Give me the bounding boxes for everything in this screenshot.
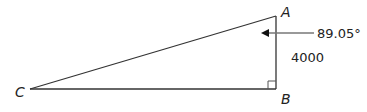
vertex-label-a: A <box>280 4 291 20</box>
arrow-head-icon <box>261 29 269 37</box>
triangle-diagram: A B C 89.05° 4000 <box>0 0 367 112</box>
side-length-label: 4000 <box>291 50 324 65</box>
side-ca <box>30 16 276 89</box>
angle-value-label: 89.05° <box>317 26 361 41</box>
right-angle-marker <box>268 81 276 89</box>
vertex-label-c: C <box>15 84 25 100</box>
vertex-label-b: B <box>281 91 291 107</box>
